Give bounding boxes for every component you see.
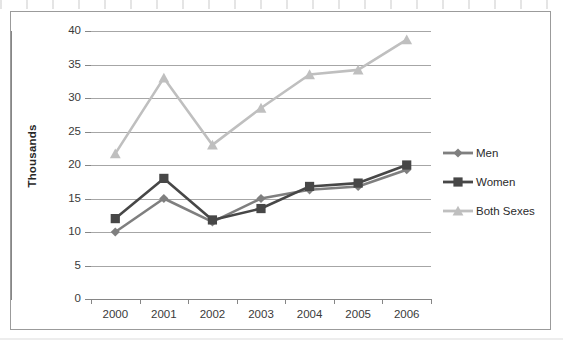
x-tick-label: 2001 [141, 308, 187, 320]
chart-frame: Thousands 0510152025303540 2000200120022… [10, 11, 551, 330]
data-point-square [354, 178, 363, 187]
series-women [111, 160, 412, 224]
y-tick-label: 15 [51, 192, 81, 204]
plot-wrapper: Thousands 0510152025303540 2000200120022… [11, 12, 552, 331]
legend-label: Men [476, 147, 498, 159]
y-tick-label: 20 [51, 158, 81, 170]
scan-artifact-bottom [0, 338, 563, 340]
legend-swatch-triangle-icon [443, 204, 473, 218]
series-line [115, 40, 406, 154]
x-tick-label: 2000 [92, 308, 138, 320]
x-axis-line [91, 299, 432, 300]
data-point-triangle [401, 35, 412, 45]
legend-swatch-diamond-icon [443, 146, 473, 160]
x-tick-label: 2006 [384, 308, 430, 320]
series-men [111, 165, 412, 237]
x-tick-label: 2002 [189, 308, 235, 320]
y-tick-label: 10 [51, 225, 81, 237]
legend-item-both-sexes[interactable]: Both Sexes [443, 196, 548, 225]
y-axis-line [11, 31, 12, 300]
data-point-square [111, 214, 120, 223]
data-point-square [453, 177, 462, 186]
y-tick-label: 5 [51, 259, 81, 271]
data-point-diamond [453, 148, 462, 157]
data-point-square [402, 160, 411, 169]
data-point-diamond [256, 194, 265, 203]
x-tick-label: 2004 [287, 308, 333, 320]
scan-artifact-top [0, 0, 563, 9]
series-both-sexes [110, 35, 412, 159]
y-tick-label: 0 [51, 292, 81, 304]
legend-label: Women [476, 176, 515, 188]
legend-swatch-square-icon [443, 175, 473, 189]
legend-item-men[interactable]: Men [443, 138, 548, 167]
y-tick-label: 35 [51, 58, 81, 70]
y-tick-label: 40 [51, 24, 81, 36]
data-point-square [159, 174, 168, 183]
x-tick-label: 2005 [335, 308, 381, 320]
data-point-triangle [158, 73, 169, 83]
series-plot [91, 31, 431, 299]
y-axis-title: Thousands [26, 91, 38, 221]
data-point-square [305, 182, 314, 191]
chart-page: Thousands 0510152025303540 2000200120022… [0, 0, 563, 344]
legend-item-women[interactable]: Women [443, 167, 548, 196]
data-point-square [256, 204, 265, 213]
legend-label: Both Sexes [476, 205, 535, 217]
chart-legend: Men Women Both Sexes [443, 138, 548, 225]
y-tick-label: 30 [51, 91, 81, 103]
x-tick-label: 2003 [238, 308, 284, 320]
y-tick-label: 25 [51, 125, 81, 137]
data-point-square [208, 215, 217, 224]
